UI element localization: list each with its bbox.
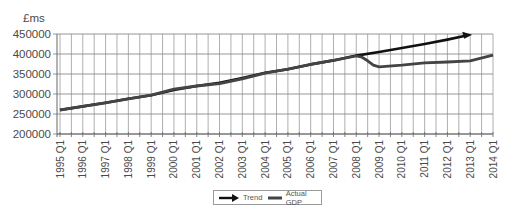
x-tick-label: 1996 Q1 <box>77 140 88 179</box>
x-tick-label: 2013 Q1 <box>465 140 476 179</box>
x-tick-label: 2007 Q1 <box>328 140 339 179</box>
x-tick-label: 1998 Q1 <box>123 140 134 179</box>
arrow-icon <box>219 194 239 202</box>
arrow-head-icon <box>462 32 472 39</box>
legend-label: Trend <box>243 193 262 202</box>
line-swatch-icon <box>268 194 281 202</box>
y-axis-unit: £ms <box>23 12 45 24</box>
x-tick-label: 2006 Q1 <box>305 140 316 179</box>
y-tick-label: 300000 <box>13 88 51 100</box>
x-tick-label: 2014 Q1 <box>488 140 499 179</box>
y-tick-label: 350000 <box>13 68 51 80</box>
x-tick-label: 2011 Q1 <box>419 140 430 178</box>
legend-label: Actual GDP <box>286 189 315 207</box>
gdp-line-chart: 200000250000300000350000400000450000£ms1… <box>0 0 508 209</box>
x-tick-label: 2003 Q1 <box>237 140 248 179</box>
x-tick-label: 2002 Q1 <box>214 140 225 179</box>
legend-item-trend: Trend <box>219 193 262 202</box>
chart-legend: Trend Actual GDP <box>213 190 322 205</box>
x-tick-label: 2000 Q1 <box>168 140 179 179</box>
x-tick-label: 2010 Q1 <box>396 140 407 179</box>
x-tick-label: 2008 Q1 <box>351 140 362 179</box>
x-tick-label: 2005 Q1 <box>282 140 293 179</box>
y-tick-label: 450000 <box>13 28 51 40</box>
grid-lines <box>53 34 493 134</box>
y-tick-label: 400000 <box>13 48 51 60</box>
legend-item-actual-gdp: Actual GDP <box>268 189 315 207</box>
axes <box>57 34 493 137</box>
x-tick-label: 1999 Q1 <box>146 140 157 179</box>
x-tick-label: 1997 Q1 <box>100 140 111 179</box>
x-tick-label: 2012 Q1 <box>442 140 453 179</box>
x-tick-label: 2009 Q1 <box>374 140 385 179</box>
y-tick-label: 250000 <box>13 108 51 120</box>
y-tick-label: 200000 <box>13 128 51 140</box>
x-tick-label: 2001 Q1 <box>191 140 202 179</box>
x-tick-label: 2004 Q1 <box>260 140 271 179</box>
axis-labels: 200000250000300000350000400000450000£ms1… <box>13 12 499 178</box>
x-tick-label: 1995 Q1 <box>55 140 66 179</box>
